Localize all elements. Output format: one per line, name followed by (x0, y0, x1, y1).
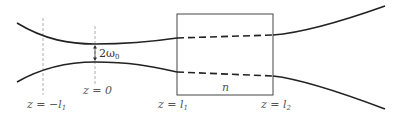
beam-upper-envelope-left (17, 23, 177, 44)
label-z-l2: z = l2 (260, 98, 292, 112)
beam-lower-envelope-left (17, 62, 177, 82)
waist-arrow-down-icon (93, 58, 97, 62)
waist-label: 2ω0 (99, 47, 119, 61)
waist-arrow-up-icon (93, 45, 97, 49)
beam-lower-envelope-slab (177, 72, 273, 76)
label-z-l1: z = l1 (157, 98, 188, 112)
beam-upper-envelope-right (273, 6, 385, 35)
gaussian-beam-diagram: 2ω0 z = 0 z = −l1 z = l1 z = l2 n (0, 0, 394, 115)
label-z-minus-l1: z = −l1 (26, 98, 66, 112)
label-refractive-index: n (222, 81, 229, 94)
beam-upper-envelope-slab (177, 35, 273, 38)
label-z-zero: z = 0 (82, 84, 112, 97)
